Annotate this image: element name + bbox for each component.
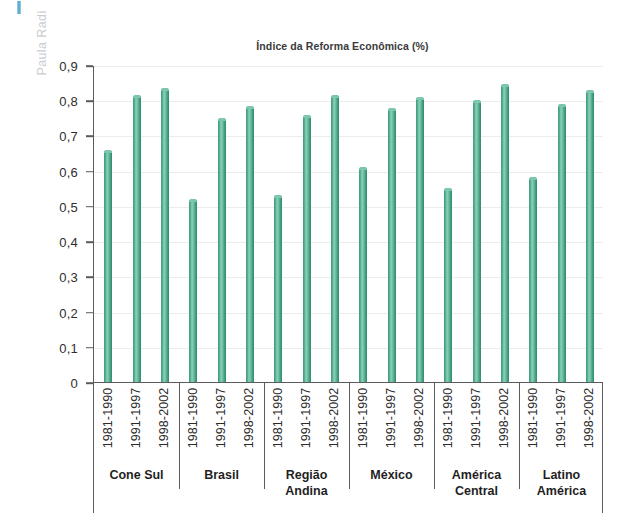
y-axis-tick-label: 0,2 [59, 305, 78, 320]
period-label-cell: 1981-1990 [349, 383, 377, 463]
period-label-cell: 1981-1990 [264, 383, 292, 463]
bar [104, 150, 112, 382]
bar-cap [444, 188, 452, 191]
y-axis-tick-label: 0,8 [59, 94, 78, 109]
period-label: 1991-1997 [215, 388, 229, 449]
period-label: 1998-2002 [158, 388, 172, 449]
bar [416, 97, 424, 382]
bar-cap [501, 84, 509, 87]
y-axis-tick-label: 0,5 [59, 199, 78, 214]
period-label-cell: 1981-1990 [179, 383, 207, 463]
period-label: 1991-1997 [130, 388, 144, 449]
period-label-cell: 1991-1997 [292, 383, 320, 463]
bar [303, 115, 311, 382]
bar-cap [133, 95, 141, 98]
y-axis-tick-label: 0,6 [59, 164, 78, 179]
bar-cap [274, 195, 282, 198]
period-label-cell: 1981-1990 [94, 383, 122, 463]
y-axis-tick-label: 0,1 [59, 340, 78, 355]
y-axis-tick-mark [86, 171, 93, 173]
group-label-cell: Cone Sul [94, 463, 179, 513]
period-label: 1981-1990 [186, 388, 200, 449]
group-label-cell: AméricaCentral [434, 463, 519, 513]
period-label: 1991-1997 [300, 388, 314, 449]
period-label: 1991-1997 [555, 388, 569, 449]
period-label: 1981-1990 [356, 388, 370, 449]
group-separator [434, 383, 435, 489]
bar [161, 88, 169, 382]
bar-cap [303, 115, 311, 118]
y-axis-tick-mark [86, 312, 93, 314]
period-label-cell: 1991-1997 [547, 383, 575, 463]
group-separator [179, 383, 180, 489]
period-label-cell: 1991-1997 [207, 383, 235, 463]
bar [586, 90, 594, 382]
y-axis-tick-mark [86, 100, 93, 102]
y-axis: 00,10,20,30,40,50,60,70,80,9 [0, 66, 93, 383]
y-axis-tick-mark [86, 65, 93, 67]
bar [359, 167, 367, 382]
x-axis-label-band: 1981-19901991-19971998-20021981-19901991… [93, 383, 603, 513]
bar [501, 84, 509, 382]
group-label-cell: Brasil [179, 463, 264, 513]
bar [444, 188, 452, 382]
group-label-cell: RegiãoAndina [264, 463, 349, 513]
period-label-cell: 1991-1997 [462, 383, 490, 463]
group-separator [264, 383, 265, 489]
period-label: 1991-1997 [385, 388, 399, 449]
chart-title: Índice da Reforma Econômica (%) [0, 40, 639, 52]
bar [558, 104, 566, 382]
bar-cap [473, 100, 481, 103]
period-label-cell: 1981-1990 [519, 383, 547, 463]
bar [388, 108, 396, 382]
bar [274, 195, 282, 382]
y-axis-tick-mark [86, 382, 93, 384]
y-axis-tick-mark [86, 347, 93, 349]
period-label-row: 1981-19901991-19971998-20021981-19901991… [94, 383, 602, 463]
bar-cap [416, 97, 424, 100]
group-separator [349, 383, 350, 489]
group-separator [519, 383, 520, 489]
bar [473, 100, 481, 382]
period-label-cell: 1998-2002 [576, 383, 604, 463]
period-label-cell: 1981-1990 [434, 383, 462, 463]
group-label-line: Andina [285, 483, 327, 499]
period-label: 1981-1990 [441, 388, 455, 449]
bar-cap [218, 118, 226, 121]
period-label-cell: 1991-1997 [122, 383, 150, 463]
bar [189, 199, 197, 382]
period-label-cell: 1991-1997 [377, 383, 405, 463]
corner-accent-mark [17, 1, 21, 14]
group-label-line: América [452, 467, 501, 483]
group-label-cell: LatinoAmérica [519, 463, 604, 513]
y-axis-tick-label: 0,9 [59, 59, 78, 74]
bar-cap [359, 167, 367, 170]
period-label-cell: 1998-2002 [236, 383, 264, 463]
period-label-cell: 1998-2002 [406, 383, 434, 463]
bar [246, 106, 254, 382]
chart-title-text: Índice da Reforma Econômica (%) [210, 40, 428, 52]
period-label: 1998-2002 [243, 388, 257, 449]
y-axis-tick-mark [86, 241, 93, 243]
bar-cap [529, 177, 537, 180]
bar-cap [586, 90, 594, 93]
group-label-line: Latino [543, 467, 581, 483]
period-label-cell: 1998-2002 [491, 383, 519, 463]
bar-cap [388, 108, 396, 111]
y-axis-tick-label: 0 [71, 376, 78, 391]
period-label: 1991-1997 [470, 388, 484, 449]
y-axis-tick-label: 0,7 [59, 129, 78, 144]
period-label: 1981-1990 [526, 388, 540, 449]
y-axis-tick-label: 0,3 [59, 270, 78, 285]
group-label-line: Região [286, 467, 328, 483]
period-label: 1998-2002 [413, 388, 427, 449]
group-label-line: Central [455, 483, 498, 499]
y-axis-tick-mark [86, 277, 93, 279]
y-axis-tick-mark [86, 206, 93, 208]
group-label-line: Cone Sul [109, 467, 163, 483]
period-label-cell: 1998-2002 [321, 383, 349, 463]
bar-cap [104, 150, 112, 153]
period-label: 1998-2002 [583, 388, 597, 449]
bar [529, 177, 537, 382]
period-label: 1981-1990 [101, 388, 115, 449]
